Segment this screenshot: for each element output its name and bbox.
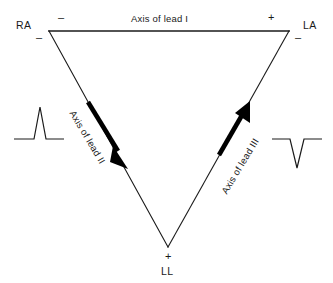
einthoven-triangle-figure: [0, 0, 333, 283]
axis-label-lead-i: Axis of lead I: [131, 14, 188, 24]
upright-qrs-waveform: [14, 107, 64, 139]
polarity-sign-lead-ii-negative: –: [36, 32, 42, 43]
polarity-sign-lead-i-negative: –: [58, 12, 64, 23]
polarity-sign-ll-positive: +: [165, 251, 171, 262]
vertex-label-la: LA: [303, 20, 316, 31]
polarity-sign-lead-i-positive: +: [268, 12, 274, 23]
vertex-label-ra: RA: [16, 20, 31, 31]
vertex-label-ll: LL: [161, 266, 173, 277]
polarity-sign-lead-iii-negative: –: [295, 32, 301, 43]
inverted-qrs-waveform: [272, 139, 322, 168]
